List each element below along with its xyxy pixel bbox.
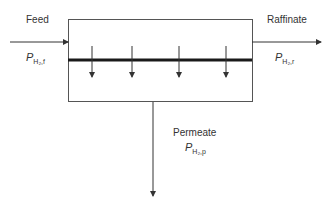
feed-pressure: PH₂,f: [26, 51, 45, 65]
permeate-label: Permeate: [173, 127, 216, 138]
permeate-pressure-subscript: H₂,p: [192, 148, 206, 155]
raffinate-pressure-subscript: H₂,r: [282, 58, 294, 65]
raffinate-pressure: PH₂,r: [275, 51, 294, 65]
permeate-pressure: PH₂,p: [185, 141, 206, 155]
raffinate-label: Raffinate: [267, 14, 307, 25]
feed-label: Feed: [26, 14, 49, 25]
feed-pressure-subscript: H₂,f: [33, 58, 45, 65]
membrane-diagram: [0, 0, 330, 204]
